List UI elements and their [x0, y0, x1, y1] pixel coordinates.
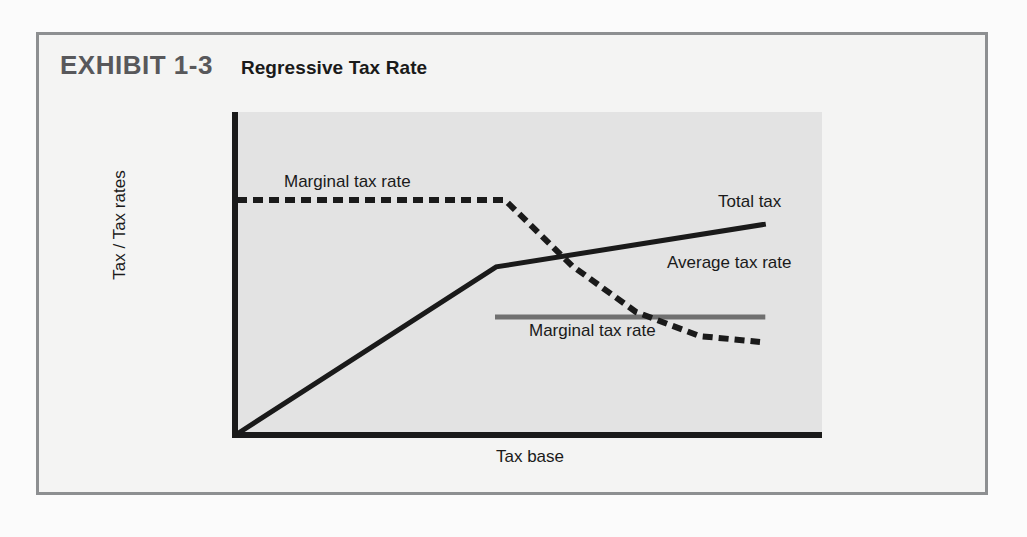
y-axis-line — [232, 112, 238, 438]
label-average-tax-rate: Average tax rate — [667, 253, 791, 273]
label-total-tax: Total tax — [718, 192, 781, 212]
label-marginal-tax-rate-bottom: Marginal tax rate — [529, 321, 656, 341]
y-axis-title: Tax / Tax rates — [110, 95, 130, 355]
x-axis-title: Tax base — [400, 447, 660, 467]
label-marginal-tax-rate-top: Marginal tax rate — [284, 172, 411, 192]
exhibit-number: EXHIBIT 1-3 — [60, 50, 213, 81]
exhibit-header: EXHIBIT 1-3 Regressive Tax Rate — [60, 50, 427, 81]
x-axis-line — [232, 432, 822, 438]
exhibit-title: Regressive Tax Rate — [241, 57, 427, 79]
plot-area — [237, 112, 822, 434]
